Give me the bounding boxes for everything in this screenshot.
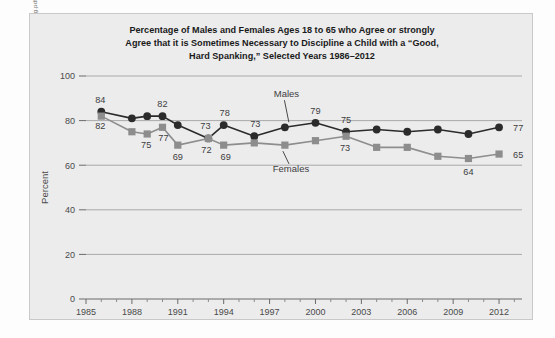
- point-value-label: 73: [200, 121, 210, 131]
- point-value-label: 75: [341, 115, 351, 125]
- data-point-females: [281, 142, 288, 149]
- x-axis-tick-label: 1997: [260, 307, 280, 317]
- point-value-label: 75: [141, 140, 151, 150]
- x-axis-tick-label: 2000: [305, 307, 325, 317]
- series-annotations-group: MalesFemales: [273, 88, 310, 174]
- point-value-label: 77: [158, 133, 168, 143]
- y-axis-tick-label: 80: [65, 116, 75, 126]
- y-axis-title: Percent: [39, 171, 50, 204]
- point-value-label: 73: [250, 119, 260, 129]
- point-value-label: 79: [310, 106, 320, 116]
- point-value-label: 82: [157, 99, 167, 109]
- data-point-females: [373, 144, 380, 151]
- data-point-females: [144, 130, 151, 137]
- data-point-males: [128, 114, 136, 122]
- point-value-label: 73: [340, 143, 350, 153]
- x-axis-tick-label: 1985: [76, 307, 96, 317]
- point-value-label: 69: [173, 152, 183, 162]
- y-axis-tick-label: 60: [65, 161, 75, 171]
- data-point-females: [465, 155, 472, 162]
- x-axis-tick-label: 2006: [397, 307, 417, 317]
- data-point-males: [250, 132, 258, 140]
- x-axis-tick-label: 2012: [489, 307, 509, 317]
- data-point-males: [220, 121, 228, 129]
- data-point-females: [205, 135, 212, 142]
- data-point-males: [281, 123, 289, 131]
- data-point-males: [495, 123, 503, 131]
- y-axis-tick-label: 0: [70, 294, 75, 304]
- point-value-label: 77: [513, 123, 523, 133]
- data-point-males: [373, 126, 381, 134]
- data-point-males: [143, 112, 151, 120]
- point-value-label: 65: [513, 150, 523, 160]
- data-point-females: [128, 128, 135, 135]
- y-axis-tick-label: 20: [65, 250, 75, 260]
- data-point-females: [342, 133, 349, 140]
- data-point-females: [220, 142, 227, 149]
- data-point-females: [98, 113, 105, 120]
- series-annotation-label: Females: [273, 163, 310, 174]
- x-axis-tick-label: 2003: [351, 307, 371, 317]
- data-point-females: [434, 153, 441, 160]
- point-value-label: 64: [463, 167, 473, 177]
- data-point-males: [403, 128, 411, 136]
- chart-panel: Percentage of Males and Females Ages 18 …: [29, 13, 533, 320]
- data-point-males: [465, 130, 473, 138]
- x-axis-tick-label: 2009: [443, 307, 463, 317]
- line-chart-svg: 020406080100Percent 19851988199119941997…: [30, 14, 534, 321]
- point-labels-group: 8482827577697273786973797573647765: [95, 95, 523, 177]
- data-point-males: [312, 119, 320, 127]
- x-axis-tick-label: 1994: [214, 307, 234, 317]
- point-value-label: 78: [220, 108, 230, 118]
- x-axis-tick-label: 1991: [168, 307, 188, 317]
- annotation-leader-line: [284, 100, 288, 122]
- x-axis-group: 1985198819911994199720002003200620092012: [76, 299, 522, 317]
- data-point-males: [434, 126, 442, 134]
- point-value-label: 72: [201, 145, 211, 155]
- series-annotation-label: Males: [274, 88, 300, 99]
- data-point-females: [404, 144, 411, 151]
- data-point-females: [312, 137, 319, 144]
- x-axis-tick-label: 1988: [122, 307, 142, 317]
- y-axis-tick-label: 100: [60, 71, 75, 81]
- point-value-label: 84: [95, 95, 105, 105]
- y-axis-tick-label: 40: [65, 205, 75, 215]
- figure-root: http://www.childtrends.org/wp-content/up…: [0, 0, 555, 338]
- data-point-males: [159, 112, 167, 120]
- data-point-females: [174, 142, 181, 149]
- data-point-males: [174, 121, 182, 129]
- data-point-females: [495, 150, 502, 157]
- data-point-females: [251, 139, 258, 146]
- point-value-label: 82: [95, 121, 105, 131]
- y-axis-group: 020406080100Percent: [39, 71, 86, 304]
- data-point-females: [159, 124, 166, 131]
- point-value-label: 69: [221, 152, 231, 162]
- plot-area: 020406080100Percent 19851988199119941997…: [30, 14, 534, 321]
